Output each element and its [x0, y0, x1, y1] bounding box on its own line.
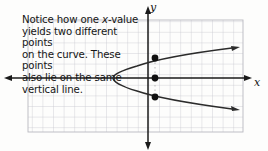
parabola-figure: Notice how one x-value yields two differ…: [0, 0, 268, 151]
y-axis-label: y: [150, 1, 156, 14]
annotation-line-3: on the curve. These points: [22, 49, 121, 72]
x-axis-label: x: [254, 76, 260, 89]
point-lower-intersection: [152, 94, 159, 101]
point-upper-intersection: [152, 55, 159, 62]
annotation-caption: Notice how one x-value yields two differ…: [22, 14, 150, 95]
annotation-line-2: yields two different points: [22, 26, 117, 49]
annotation-line-1-suffix: -value: [108, 14, 138, 25]
point-center-intersection: [152, 75, 159, 82]
annotation-line-5: vertical line.: [22, 84, 83, 95]
annotation-line-1-prefix: Notice how one: [22, 14, 102, 25]
annotation-line-4: also lie on the same: [22, 72, 122, 83]
